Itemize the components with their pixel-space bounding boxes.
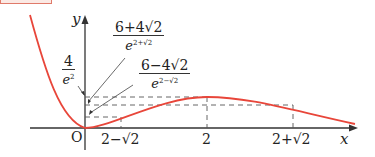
- label-4-over-e2: 4 e2: [62, 54, 75, 87]
- x-tick-2: 2: [202, 131, 211, 147]
- dashed-guides: [85, 97, 293, 128]
- y-axis-label: y: [72, 10, 80, 28]
- x-tick-2-minus-sqrt2: 2−√2: [101, 131, 139, 147]
- x-axis-label: x: [340, 130, 348, 148]
- leader-arrow-icon: [89, 110, 93, 115]
- x-tick-2-plus-sqrt2: 2+√2: [272, 131, 310, 147]
- y-axis-arrow-icon: [82, 15, 89, 24]
- label-6-plus-4sqrt2: 6+4√2 e2+√2: [113, 20, 164, 53]
- x-axis-arrow-icon: [349, 125, 358, 132]
- function-curve: [30, 15, 355, 128]
- origin-label: O: [71, 129, 82, 145]
- label-6-minus-4sqrt2: 6−4√2 e2−√2: [139, 58, 190, 91]
